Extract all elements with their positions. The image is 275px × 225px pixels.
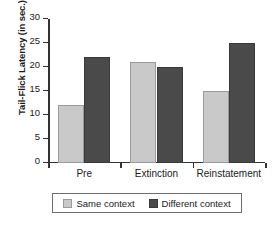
bar-reinstatement-series-1 (229, 43, 255, 163)
x-axis-labels: PreExtinctionReinstatement (48, 168, 265, 184)
bar-pre-series-1 (84, 57, 110, 163)
y-axis-tick-label: 10 (29, 107, 40, 118)
bar-reinstatement-series-0 (203, 91, 229, 163)
y-axis-tick-label: 5 (35, 131, 40, 142)
y-axis-tick-label: 20 (29, 59, 40, 70)
legend-swatch-icon (63, 199, 72, 208)
bar-extinction-series-0 (130, 62, 156, 163)
legend-label: Different context (162, 198, 231, 209)
legend-swatch-icon (149, 199, 158, 208)
legend-entry-1: Different context (149, 198, 231, 209)
bar-extinction-series-1 (157, 67, 183, 163)
y-axis-tick-label: 30 (29, 11, 40, 22)
x-axis-label-reinstatement: Reinstatement (193, 168, 265, 179)
x-axis-tick (265, 163, 267, 168)
y-axis-tick-label: 15 (29, 83, 40, 94)
plot-area: 051015202530 (48, 19, 265, 163)
y-axis-tick-label: 25 (29, 35, 40, 46)
bar-pre-series-0 (58, 105, 84, 163)
x-axis-label-extinction: Extinction (120, 168, 192, 179)
legend-entry-0: Same context (63, 198, 134, 209)
y-axis-tick-label: 0 (35, 155, 40, 166)
legend-label: Same context (76, 198, 134, 209)
x-axis-label-pre: Pre (48, 168, 120, 179)
bars-layer (48, 19, 265, 163)
bar-chart: Tail-Flick Latency (in sec.) 05101520253… (0, 0, 275, 225)
y-axis-title: Tail-Flick Latency (in sec.) (16, 0, 27, 133)
chart-legend: Same contextDifferent context (52, 193, 242, 213)
